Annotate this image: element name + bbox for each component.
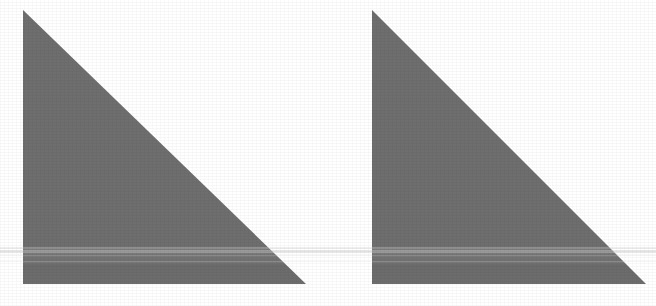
image-canvas	[0, 0, 656, 306]
triangles-figure	[0, 0, 656, 306]
